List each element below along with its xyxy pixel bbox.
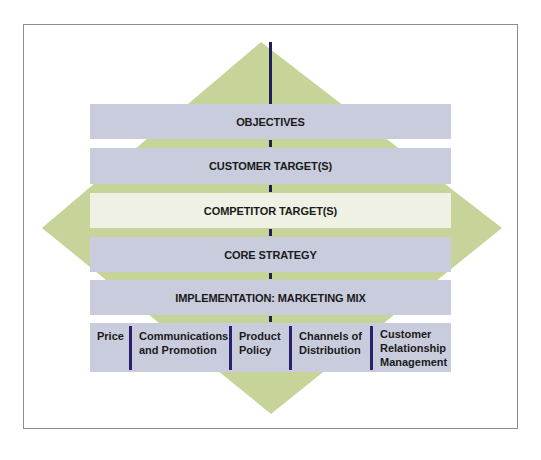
connector-line xyxy=(269,229,272,236)
connector-line xyxy=(269,273,272,279)
level-label: CORE STRATEGY xyxy=(224,249,317,261)
level-core-strategy: CORE STRATEGY xyxy=(90,237,451,272)
connector-line xyxy=(269,316,272,322)
connector-line xyxy=(269,185,272,192)
mix-item-crm: Customer Relationship Management xyxy=(373,323,451,372)
level-competitor-targets: COMPETITOR TARGET(S) xyxy=(90,193,451,228)
connector-line xyxy=(269,140,272,147)
mix-item-price: Price xyxy=(90,323,129,372)
level-customer-targets: CUSTOMER TARGET(S) xyxy=(90,148,451,184)
marketing-mix-row: Price Communications and Promotion Produ… xyxy=(90,323,451,372)
level-label: CUSTOMER TARGET(S) xyxy=(209,160,332,172)
level-implementation: IMPLEMENTATION: MARKETING MIX xyxy=(90,280,451,315)
level-objectives: OBJECTIVES xyxy=(90,104,451,139)
mix-item-product-policy: Product Policy xyxy=(232,323,289,372)
mix-item-communications: Communications and Promotion xyxy=(132,323,229,372)
mix-item-distribution: Channels of Distribution xyxy=(292,323,370,372)
level-label: IMPLEMENTATION: MARKETING MIX xyxy=(175,292,365,304)
level-label: COMPETITOR TARGET(S) xyxy=(204,205,337,217)
level-label: OBJECTIVES xyxy=(236,116,305,128)
